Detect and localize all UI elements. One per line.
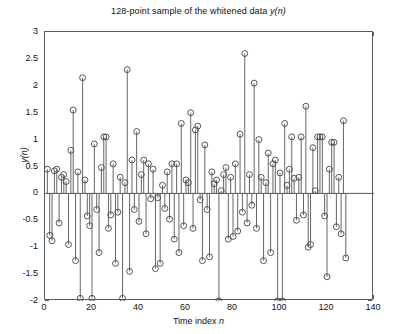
chart-title-text: 128-point sample of the whitened data — [111, 6, 270, 16]
y-tick-label: -1 — [0, 241, 38, 251]
x-tick-label: 120 — [306, 302, 346, 312]
y-tick-label: 0.5 — [0, 161, 38, 171]
x-tick-label: 60 — [165, 302, 205, 312]
x-tick-label: 140 — [353, 302, 393, 312]
x-tick-label: 40 — [118, 302, 158, 312]
x-tick-label: 100 — [259, 302, 299, 312]
x-tick-label: 80 — [212, 302, 252, 312]
y-tick-label: 0 — [0, 187, 38, 197]
y-tick-label: -0.5 — [0, 214, 38, 224]
plot-area — [44, 31, 373, 300]
y-tick-label: -1.5 — [0, 268, 38, 278]
x-axis-label-variable: n — [219, 316, 224, 326]
y-tick-label: 3 — [0, 26, 38, 36]
y-tick-label: 1 — [0, 134, 38, 144]
y-tick-label: 2.5 — [0, 53, 38, 63]
x-axis-label: Time index n — [0, 316, 397, 326]
figure-container: 128-point sample of the whitened data y(… — [0, 0, 397, 334]
x-axis-label-text: Time index — [173, 316, 219, 326]
x-tick-label: 20 — [71, 302, 111, 312]
y-tick-label: 1.5 — [0, 107, 38, 117]
x-tick-label: 0 — [24, 302, 64, 312]
y-tick-label: 2 — [0, 80, 38, 90]
chart-title: 128-point sample of the whitened data y(… — [0, 6, 397, 16]
chart-title-variable: y(n) — [270, 6, 286, 16]
stem-series — [45, 32, 374, 301]
